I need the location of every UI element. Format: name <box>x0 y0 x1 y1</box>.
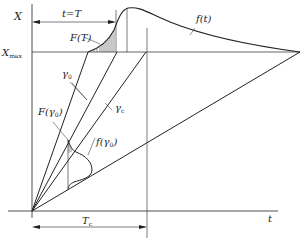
t-equals-T-dimension <box>32 20 116 24</box>
f-t-curve <box>88 8 300 52</box>
F-T-label: F(T) <box>69 32 92 43</box>
F-gamma0-leader <box>53 122 68 140</box>
t-axis-label: t <box>268 213 273 224</box>
f-t-label: f(t) <box>195 13 212 24</box>
diagram-canvas: X t Xmax t=T F(T) f(t) γ0 γc F(γ0) f(γ0)… <box>0 0 305 241</box>
t-equals-T-label: t=T <box>62 8 82 19</box>
F-T-hatch <box>94 30 114 52</box>
f-gamma0-label: f(γ0) <box>95 136 117 148</box>
ray-gamma0 <box>32 52 117 211</box>
Tc-label: Tc <box>82 215 93 227</box>
y-axis-label: X <box>13 10 23 23</box>
gamma0-label: γ0 <box>62 68 72 80</box>
ray-1 <box>32 52 88 211</box>
gammac-label: γc <box>115 102 125 114</box>
ray-gammac <box>32 52 146 211</box>
xmax-label: Xmax <box>1 47 22 59</box>
F-gamma0-label: F(γ0) <box>37 106 63 118</box>
f-gamma0-leader <box>88 138 95 155</box>
ray-long <box>32 52 300 211</box>
